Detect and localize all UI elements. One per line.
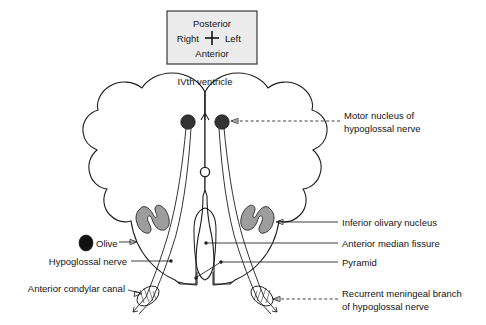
compass-left-label: Left [225,33,241,44]
compass-posterior-label: Posterior [193,18,231,29]
anterior-condylar-canal-right [247,282,277,310]
anterior-condylar-canal-left [133,282,163,310]
medulla-cross-section-diagram: Posterior Right Left Anterior [0,0,486,325]
label-ivth-ventricle: IVth ventricle [178,76,233,87]
leader-recurrent-meningeal-branch [273,296,338,301]
leader-anterior-condylar-canal [128,290,142,297]
compass-anterior-label: Anterior [195,48,228,59]
label-motor-nucleus-line1: Motor nucleus of [344,110,415,121]
label-olive: Olive [96,238,118,249]
compass-right-label: Right [177,33,200,44]
label-anterior-median-fissure: Anterior median fissure [342,238,440,249]
label-inferior-olivary-nucleus: Inferior olivary nucleus [342,217,437,228]
label-anterior-condylar-canal: Anterior condylar canal [28,283,125,294]
label-recurrent-line2: of hypoglossal nerve [342,301,429,312]
olive-marker-icon [79,235,93,251]
central-canal [200,167,209,176]
motor-nucleus-right [215,115,229,129]
label-recurrent-line1: Recurrent meningeal branch [342,288,462,299]
motor-nucleus-left [181,115,195,129]
label-motor-nucleus-line2: hypoglossal nerve [344,123,421,134]
orientation-compass: Posterior Right Left Anterior [167,11,257,64]
leader-olive [119,239,137,244]
label-pyramid: Pyramid [342,257,377,268]
label-hypoglossal-nerve: Hypoglossal nerve [49,256,127,267]
